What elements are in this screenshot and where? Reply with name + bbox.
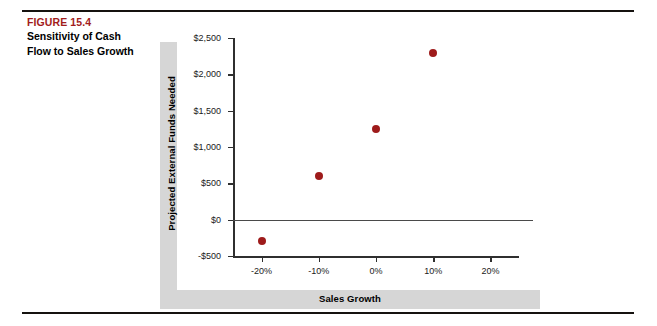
chart-figure: Projected External Funds Needed Sales Gr… xyxy=(160,18,540,308)
data-point xyxy=(258,237,266,245)
y-axis-tick: $1,500 xyxy=(228,111,234,112)
x-axis-title: Sales Growth xyxy=(160,293,540,304)
data-point xyxy=(429,49,437,57)
y-axis-tick: -$500 xyxy=(228,256,234,257)
y-axis-tick-label: $500 xyxy=(201,178,221,188)
y-axis-tick-label: -$500 xyxy=(198,251,221,261)
figure-caption: FIGURE 15.4 Sensitivity of Cash Flow to … xyxy=(27,16,157,58)
x-axis-tick xyxy=(376,256,377,262)
y-axis-tick-label: $2,000 xyxy=(193,69,221,79)
figure-title-line-2: Flow to Sales Growth xyxy=(27,45,157,59)
figure-title-line-1: Sensitivity of Cash xyxy=(27,30,157,44)
x-axis-tick-label: 0% xyxy=(369,266,382,276)
data-point xyxy=(372,125,380,133)
figure-number: FIGURE 15.4 xyxy=(27,16,157,29)
y-axis-tick: $500 xyxy=(228,183,234,184)
zero-reference-line xyxy=(233,220,533,221)
y-axis-tick-label: $2,500 xyxy=(193,33,221,43)
x-axis-tick-label: 20% xyxy=(481,266,499,276)
x-axis-tick-label: -10% xyxy=(308,266,329,276)
y-axis-tick-label: $1,500 xyxy=(193,106,221,116)
x-axis-tick xyxy=(433,256,434,262)
y-axis-tick-label: $0 xyxy=(211,215,221,225)
y-axis-tick-label: $1,000 xyxy=(193,142,221,152)
x-axis-tick-label: 10% xyxy=(424,266,442,276)
x-axis-tick xyxy=(319,256,320,262)
bottom-rule xyxy=(22,312,634,314)
y-axis-tick: $1,000 xyxy=(228,147,234,148)
x-axis-tick xyxy=(490,256,491,262)
data-point xyxy=(315,172,323,180)
x-axis-tick xyxy=(262,256,263,262)
x-axis-tick-label: -20% xyxy=(251,266,272,276)
y-axis-title: Projected External Funds Needed xyxy=(166,39,177,269)
y-axis-tick: $2,500 xyxy=(228,38,234,39)
y-axis-tick: $2,000 xyxy=(228,74,234,75)
top-rule xyxy=(22,10,634,12)
plot-area: $2,500$2,000$1,500$1,000$500$0-$500-20%-… xyxy=(233,38,519,256)
